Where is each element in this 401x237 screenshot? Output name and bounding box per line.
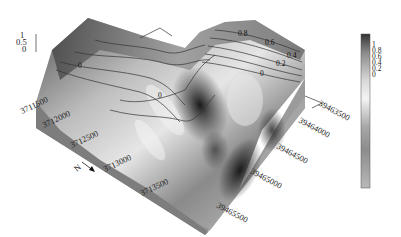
svg-text:0: 0	[158, 91, 162, 100]
svg-text:0.6: 0.6	[265, 38, 275, 47]
z-axis: 1 0.5 0	[16, 30, 36, 54]
svg-text:0: 0	[260, 69, 264, 78]
surface-plot: 0 0 0 0.2 0.4 0.6 0.8 1 0.5 0 3711500 37…	[0, 0, 401, 237]
svg-text:39464500: 39464500	[275, 141, 310, 166]
svg-text:0.4: 0.4	[287, 51, 297, 60]
north-arrow-icon: N	[72, 162, 95, 174]
svg-text:0.8: 0.8	[238, 29, 248, 38]
svg-text:0: 0	[22, 44, 26, 54]
svg-text:N: N	[72, 162, 83, 174]
svg-text:39463500: 39463500	[317, 98, 352, 123]
svg-text:0: 0	[78, 61, 82, 70]
svg-text:0: 0	[372, 70, 376, 79]
svg-text:39464000: 39464000	[297, 115, 332, 140]
svg-text:0.2: 0.2	[276, 59, 286, 68]
colorbar: 1 0.8 0.6 0.4 0.2 0	[361, 34, 382, 188]
